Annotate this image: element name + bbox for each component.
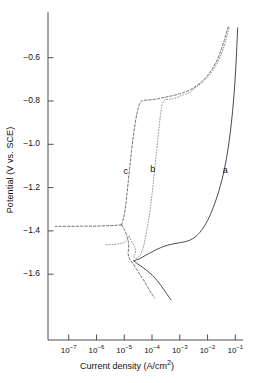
curve-c-anodic2 [122, 26, 229, 225]
y-tick-label: −1.0 [14, 138, 40, 148]
axis-lines [48, 12, 243, 340]
data-curves [55, 26, 237, 300]
curve-b-anodic [129, 28, 229, 258]
y-tick-label: −0.8 [14, 95, 40, 105]
x-tick-label: 10−7 [56, 344, 82, 355]
x-tick-label: 10−4 [139, 344, 165, 355]
x-tick-label: 10−1 [222, 344, 248, 355]
x-axis-title-main: Current density (A/cm [80, 361, 167, 371]
y-tick-label: −1.6 [14, 268, 40, 278]
y-tick-label: −1.2 [14, 182, 40, 192]
tick-marks [48, 58, 235, 340]
curve-c-cathodic [55, 225, 121, 227]
x-axis-title: Current density (A/cm2) [0, 358, 254, 371]
x-axis-title-end: ) [171, 361, 174, 371]
polarization-chart: Potential (V vs. SCE) Current density (A… [0, 0, 254, 383]
x-tick-label: 10−3 [167, 344, 193, 355]
curve-label-b: b [150, 164, 155, 174]
curve-label-c: c [123, 166, 128, 176]
curve-a-anodic [134, 28, 238, 261]
x-tick-label: 10−6 [83, 344, 109, 355]
curve-label-a: a [223, 165, 228, 175]
x-tick-label: 10−2 [195, 344, 221, 355]
curve-c-anodic [122, 225, 155, 298]
curve-b-cathodic [106, 236, 129, 244]
y-tick-label: −1.4 [14, 225, 40, 235]
x-tick-label: 10−5 [111, 344, 137, 355]
y-tick-label: −0.6 [14, 52, 40, 62]
